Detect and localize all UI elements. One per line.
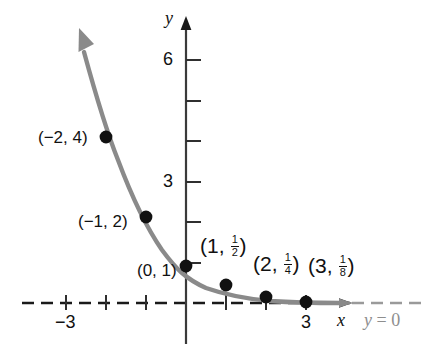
point-label-2-quarter-suffix: ) xyxy=(292,252,299,275)
fraction-denominator: 8 xyxy=(339,266,347,279)
point-label-3-eighth-suffix: ) xyxy=(347,254,354,277)
y-axis-line xyxy=(181,16,192,344)
fraction-numerator: 1 xyxy=(284,252,292,264)
point-label-2-quarter-prefix: (2, xyxy=(253,252,283,275)
point-label-1-half-prefix: (1, xyxy=(200,234,230,257)
point-label-neg2-4: (−2, 4) xyxy=(38,129,88,146)
marker-1-half xyxy=(220,279,233,292)
fraction-denominator: 2 xyxy=(231,246,239,259)
x-tick-label-3: 3 xyxy=(301,313,311,331)
y-tick-label-6: 6 xyxy=(163,50,173,68)
asymptote-label-equation: = 0 xyxy=(372,310,400,330)
fraction-one-half: 1 2 xyxy=(231,234,239,258)
point-label-1-half: (1, 1 2 ) xyxy=(200,234,246,258)
data-points xyxy=(100,131,313,309)
exponential-decay-graph-figure: 6 3 −3 3 y x y = 0 (−2, 4) (−1, 2) (0, 1… xyxy=(0,0,431,364)
marker-3-eighth xyxy=(300,296,313,309)
fraction-numerator: 1 xyxy=(339,254,347,266)
x-tick-label-neg3: −3 xyxy=(55,313,76,331)
fraction-numerator: 1 xyxy=(231,234,239,246)
point-label-3-eighth: (3, 1 8 ) xyxy=(308,254,354,278)
asymptote-label: y = 0 xyxy=(364,311,400,329)
marker-0-1 xyxy=(180,260,193,273)
fraction-denominator: 4 xyxy=(284,264,292,277)
point-label-1-half-suffix: ) xyxy=(239,234,246,257)
y-axis-name-label: y xyxy=(165,9,173,27)
marker-neg1-2 xyxy=(140,211,153,224)
asymptote-label-variable: y xyxy=(364,310,372,330)
marker-2-quarter xyxy=(260,291,273,304)
fraction-one-quarter: 1 4 xyxy=(284,252,292,276)
y-axis-ticks xyxy=(186,60,201,263)
fraction-one-eighth: 1 8 xyxy=(339,254,347,278)
point-label-neg1-2: (−1, 2) xyxy=(78,213,128,230)
point-label-2-quarter: (2, 1 4 ) xyxy=(253,252,299,276)
x-axis-name-label: x xyxy=(337,311,345,329)
point-label-3-eighth-prefix: (3, xyxy=(308,254,338,277)
marker-neg2-4 xyxy=(100,131,113,144)
y-tick-label-3: 3 xyxy=(163,172,173,190)
point-label-0-1: (0, 1) xyxy=(137,262,177,279)
